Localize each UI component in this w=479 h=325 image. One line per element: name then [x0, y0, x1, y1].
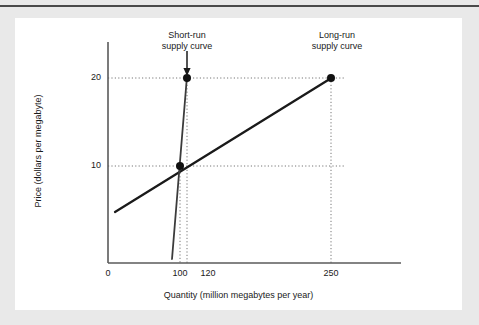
chart-axes: [108, 42, 401, 263]
short-run-annotation-arrow: [183, 51, 190, 76]
long-run-annotation-line2: supply curve: [287, 41, 387, 52]
long-run-supply-curve: [115, 77, 333, 212]
y-axis-title: Price (dollars per megabyte): [33, 76, 43, 226]
x-tick-label-0: 0: [100, 268, 116, 278]
figure-panel: 20 10 0 100 120 250 Short-run supply cur…: [15, 18, 462, 310]
y-tick-label-10: 10: [75, 160, 101, 170]
guide-lines: [108, 78, 345, 263]
short-run-annotation-line2: supply curve: [137, 41, 237, 52]
x-tick-label-120: 120: [195, 268, 221, 278]
long-run-equilibrium-marker: [327, 74, 335, 82]
top-divider-rule: [0, 5, 479, 7]
long-run-annotation-line1: Long-run: [287, 30, 387, 41]
initial-equilibrium-marker: [176, 162, 184, 170]
x-axis-title: Quantity (million megabytes per year): [15, 290, 462, 300]
marker-points: [176, 74, 335, 170]
x-tick-label-100: 100: [167, 268, 193, 278]
y-tick-label-20: 20: [75, 72, 101, 82]
x-tick-label-250: 250: [318, 268, 344, 278]
short-run-annotation-line1: Short-run: [137, 30, 237, 41]
long-run-annotation: Long-run supply curve: [287, 30, 387, 52]
short-run-annotation: Short-run supply curve: [137, 30, 237, 52]
